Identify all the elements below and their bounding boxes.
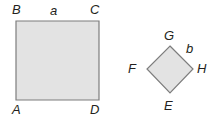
vertex-label-d-square: D	[90, 103, 99, 116]
vertex-label-g-diamond: G	[164, 29, 174, 42]
vertex-label-c-square: C	[90, 3, 99, 16]
vertex-label-b-square: B	[12, 3, 21, 16]
vertex-label-f-diamond: F	[128, 62, 136, 75]
vertex-label-e-diamond: E	[164, 99, 173, 112]
vertex-label-a-square: A	[12, 103, 21, 116]
square-shape	[16, 21, 99, 100]
figure-canvas: B a C A D G b F H E	[0, 0, 219, 125]
vertex-label-h-diamond: H	[197, 62, 206, 75]
side-label-a-square: a	[50, 4, 57, 17]
side-label-b-diamond: b	[186, 42, 193, 55]
shapes-layer	[0, 0, 219, 125]
